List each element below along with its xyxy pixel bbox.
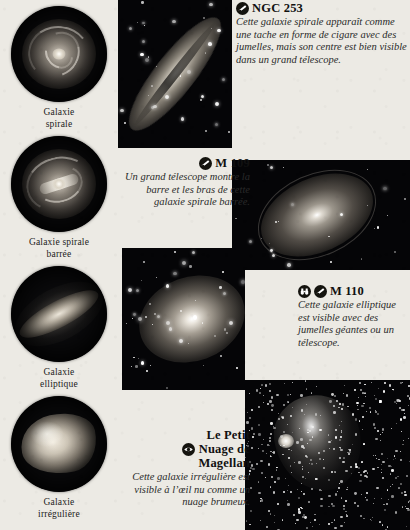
irregular-galaxy-illustration bbox=[11, 396, 107, 492]
smc-caption: Le Petit Nuage de Magellan Cette galaxie… bbox=[118, 428, 250, 509]
telescope-badge-icon bbox=[199, 157, 212, 170]
m-109-photo bbox=[232, 160, 410, 270]
m-109-caption: M 109 Un grand télescope montre la barre… bbox=[122, 156, 250, 209]
ngc-253-title: NGC 253 bbox=[252, 1, 303, 15]
sidebar-label-spiral: Galaxie spirale bbox=[0, 107, 118, 130]
naked-eye-badge-icon bbox=[182, 443, 195, 456]
m-110-text: Cette galaxie elliptique est visible ave… bbox=[298, 299, 410, 349]
smc-title: Le Petit Nuage de Magellan bbox=[198, 428, 250, 470]
sidebar-label-irregular: Galaxie irrégulière bbox=[0, 497, 118, 520]
m-110-photo bbox=[122, 248, 245, 390]
sidebar-item-spiral: Galaxie spirale bbox=[0, 6, 118, 130]
page-root: Galaxie spirale Galaxie spirale barrée G… bbox=[0, 0, 410, 530]
sidebar-label-barred-spiral: Galaxie spirale barrée bbox=[0, 237, 118, 260]
ngc-253-photo bbox=[118, 0, 232, 148]
sidebar-label-elliptical: Galaxie elliptique bbox=[0, 367, 118, 390]
ngc-253-caption: NGC 253 Cette galaxie spirale apparaît c… bbox=[236, 1, 408, 66]
sidebar-item-barred-spiral: Galaxie spirale barrée bbox=[0, 136, 118, 260]
m-110-title: M 110 bbox=[330, 284, 364, 298]
elliptical-galaxy-illustration bbox=[11, 266, 107, 362]
telescope-badge-icon bbox=[314, 285, 327, 298]
m-110-caption: M 110 Cette galaxie elliptique est visib… bbox=[298, 284, 410, 349]
ngc-253-text: Cette galaxie spirale apparaît comme une… bbox=[236, 16, 408, 66]
barred-spiral-galaxy-illustration bbox=[11, 136, 107, 232]
small-magellanic-cloud-photo bbox=[245, 380, 410, 530]
sidebar-item-elliptical: Galaxie elliptique bbox=[0, 266, 118, 390]
m-109-text: Un grand télescope montre la barre et le… bbox=[122, 171, 250, 209]
smc-text: Cette galaxie irrégulière est visible à … bbox=[118, 471, 250, 509]
spiral-galaxy-illustration bbox=[11, 6, 107, 102]
sidebar-item-irregular: Galaxie irrégulière bbox=[0, 396, 118, 520]
m-109-title: M 109 bbox=[215, 156, 250, 170]
telescope-badge-icon bbox=[236, 2, 249, 15]
binoculars-badge-icon bbox=[298, 285, 311, 298]
